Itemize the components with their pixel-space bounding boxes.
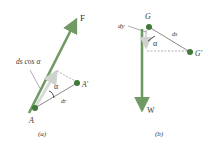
perpendicular-dashed-line: [57, 71, 77, 82]
point-a: [32, 105, 38, 111]
displacement-ds-label: ds: [172, 31, 178, 37]
caption-b: (b): [155, 130, 164, 138]
caption-a: (a): [38, 130, 47, 138]
panel-b: G dy ds α G′ W (b): [118, 12, 202, 138]
displacement-dr-label: dr: [61, 98, 67, 104]
point-a-label: A: [28, 116, 34, 125]
point-a-prime-label: A′: [81, 80, 89, 89]
panel-a: F ds cos α α A′ dr A (a): [16, 13, 89, 138]
projection-leader-line: [30, 70, 41, 90]
point-g-prime: [187, 49, 193, 55]
angle-alpha-label-b: α: [153, 39, 158, 48]
angle-alpha-label-a: α: [54, 82, 59, 91]
point-g: [146, 24, 152, 30]
work-diagram: F ds cos α α A′ dr A (a) G dy ds α G′ W …: [0, 0, 213, 147]
projection-label: ds cos α: [16, 57, 41, 66]
point-g-prime-label: G′: [195, 49, 202, 58]
point-g-label: G: [145, 12, 151, 21]
point-a-prime: [74, 80, 80, 86]
weight-w-label: W: [147, 106, 155, 115]
force-f-label: F: [80, 13, 85, 23]
force-f-arrow: [29, 20, 76, 113]
dy-label: dy: [118, 22, 126, 30]
